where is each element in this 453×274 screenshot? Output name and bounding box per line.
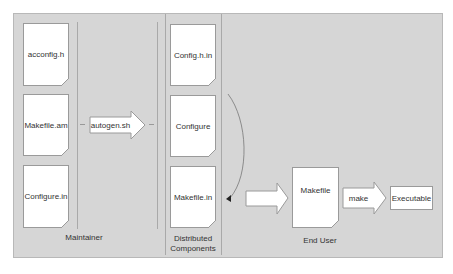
curved-arrowhead-icon: [226, 195, 231, 202]
arrows-layer: [0, 0, 453, 274]
autogen-label: autogen.sh: [90, 117, 131, 133]
to-makefile-arrow-icon: [246, 183, 288, 214]
curved-arrow-icon: [228, 94, 244, 198]
make-label: make: [343, 188, 374, 208]
